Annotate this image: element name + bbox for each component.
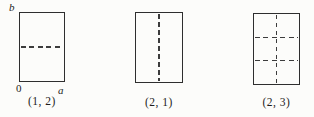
- rectangle-outline: [19, 12, 65, 82]
- dashed-horizontal-divider: [255, 37, 298, 39]
- rectangle-outline: [135, 12, 183, 83]
- panel-1x2: b 0 a (1, 2): [19, 12, 65, 117]
- axis-label-origin: 0: [16, 83, 22, 93]
- dashed-vertical-divider: [276, 15, 278, 83]
- axis-label-a: a: [58, 85, 64, 95]
- rectangle-subdivision-figure: b 0 a (1, 2) (2, 1) (2, 3): [0, 0, 314, 117]
- dashed-horizontal-divider: [21, 46, 63, 48]
- panel-caption: (1, 2): [4, 95, 80, 107]
- panel-caption: (2, 3): [238, 96, 314, 108]
- rectangle-outline: [253, 13, 300, 85]
- panel-2x3: (2, 3): [253, 13, 300, 117]
- axis-label-b: b: [9, 2, 15, 12]
- dashed-vertical-divider: [158, 14, 160, 81]
- dashed-horizontal-divider: [255, 60, 298, 62]
- panel-caption: (2, 1): [120, 96, 198, 108]
- panel-2x1: (2, 1): [135, 12, 183, 117]
